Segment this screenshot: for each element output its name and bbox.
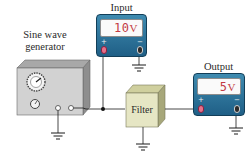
output-meter-screen: 5V <box>197 78 241 95</box>
output-meter-reading: 5V <box>220 80 236 94</box>
generator-output-terminal <box>69 106 74 111</box>
generator-label: Sine wave generator <box>12 29 78 53</box>
input-meter-reading: 10V <box>114 21 138 35</box>
input-meter: 10V + − <box>96 14 147 57</box>
output-meter: 5V + − <box>193 73 245 116</box>
input-meter-screen: 10V <box>100 19 143 37</box>
output-meter-title: Output <box>193 61 244 73</box>
generator-label-line1: Sine wave <box>12 29 78 41</box>
output-minus-sign: − <box>234 97 240 104</box>
output-plus-jack[interactable] <box>198 105 204 113</box>
output-plus-sign: + <box>198 97 204 104</box>
input-plus-jack[interactable] <box>101 46 107 54</box>
input-minus-sign: − <box>137 39 143 46</box>
generator-ground-terminal <box>56 106 61 111</box>
input-plus-sign: + <box>101 39 107 46</box>
filter-label: Filter <box>126 104 158 116</box>
generator-side <box>83 60 90 115</box>
generator-top <box>17 60 90 68</box>
input-meter-title: Input <box>96 2 147 14</box>
output-minus-jack[interactable] <box>234 105 240 113</box>
generator-label-line2: generator <box>12 41 78 53</box>
input-minus-jack[interactable] <box>137 46 143 54</box>
